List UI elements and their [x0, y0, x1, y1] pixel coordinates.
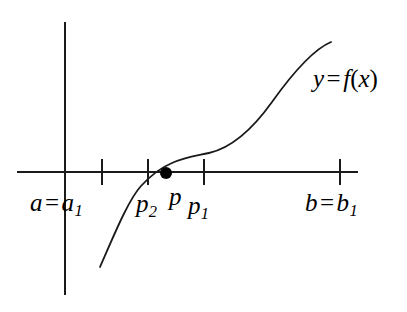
label-p2-base: p [136, 190, 149, 217]
label-fx-close-paren: ) [370, 65, 378, 92]
label-p2: p2 [136, 191, 157, 220]
label-b-relation: = [318, 189, 337, 216]
label-p1-subscript: 1 [201, 204, 210, 223]
function-curve [100, 42, 331, 267]
label-fx-argument: x [359, 65, 370, 92]
label-a-relation: = [43, 189, 62, 216]
label-function-y-equals-f-of-x: y=f(x) [313, 66, 378, 91]
label-p-base: p [169, 183, 182, 210]
label-p1: p1 [188, 193, 209, 222]
label-p1-base: p [188, 192, 201, 219]
label-a1-base: a [62, 189, 75, 216]
root-point-marker [160, 167, 172, 179]
label-p: p [169, 184, 182, 209]
label-b1-subscript: 1 [349, 201, 358, 220]
figure-canvas [0, 0, 407, 312]
label-fx-open-paren: ( [350, 65, 358, 92]
math-figure: a=a1 p2 p p1 b=b1 y=f(x) [0, 0, 407, 312]
label-p2-subscript: 2 [149, 202, 158, 221]
label-b1-base: b [337, 189, 350, 216]
label-b-base: b [305, 189, 318, 216]
label-a-base: a [30, 189, 43, 216]
label-a1-subscript: 1 [74, 201, 83, 220]
label-a-equals-a1: a=a1 [30, 190, 83, 219]
label-fx-relation: = [324, 65, 343, 92]
label-b-equals-b1: b=b1 [305, 190, 358, 219]
label-fx-variable: y [313, 65, 324, 92]
